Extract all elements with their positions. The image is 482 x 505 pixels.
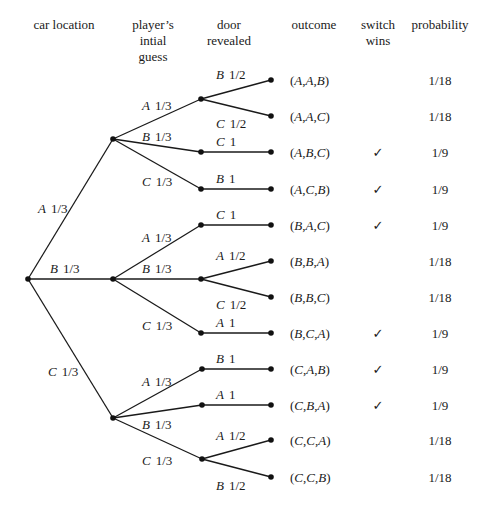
outcome-tuple: (B,B,A): [290, 254, 329, 269]
initial-guess-node: [199, 456, 205, 462]
outcome-tuple: (C,C,B): [290, 470, 330, 485]
outcome-probability: 1/18: [428, 470, 451, 485]
edge-labels: A1/3B1/3C1/3A1/3B1/3C1/3A1/3B1/3C1/3A1/3…: [37, 67, 246, 493]
outcome-tuple: (C,C,A): [290, 433, 330, 448]
outcome-tuple: (B,A,C): [290, 218, 330, 233]
checkmark-icon: ✓: [373, 362, 384, 377]
column-headers: car locationplayer’sintialguessdoorrevea…: [34, 17, 470, 64]
initial-guess-node: [199, 402, 205, 408]
outcome-tuple: (A,B,C): [290, 145, 330, 160]
door-revealed-label: B1: [216, 171, 235, 186]
initial-guess-node: [198, 330, 204, 336]
outcome-tuple: (C,B,A): [290, 398, 330, 413]
leaf-node: [268, 113, 274, 119]
outcome-probability: 1/18: [428, 254, 451, 269]
car-location-label: A1/3: [37, 201, 68, 216]
leaf-node: [268, 77, 274, 83]
leaf-node: [268, 186, 274, 192]
outcome-tuple: (C,A,B): [290, 362, 330, 377]
initial-guess-node: [198, 276, 204, 282]
column-header: player’sintialguess: [132, 17, 174, 64]
leaf-node: [268, 258, 274, 264]
checkmark-icon: ✓: [373, 398, 384, 413]
checkmark-icon: ✓: [373, 326, 384, 341]
leaf-node: [268, 474, 274, 480]
initial-guess-label: A1/3: [141, 230, 172, 245]
initial-guess-label: C1/3: [142, 174, 172, 189]
outcome-probability: 1/9: [432, 398, 449, 413]
car-location-node: [110, 276, 116, 282]
car-location-node: [110, 415, 116, 421]
initial-guess-node: [198, 222, 204, 228]
column-header: doorrevealed: [207, 17, 252, 48]
outcome-probability: 1/18: [428, 109, 451, 124]
door-revealed-edge: [201, 80, 271, 99]
outcome-tuple: (A,C,B): [290, 182, 330, 197]
door-revealed-label: A1: [215, 315, 235, 330]
car-location-node: [110, 136, 116, 142]
door-revealed-label: B1/2: [216, 478, 246, 493]
car-location-label: C1/3: [48, 364, 78, 379]
initial-guess-label: B1/3: [142, 417, 172, 432]
outcome-tuple: (A,A,C): [290, 109, 330, 124]
leaf-node: [268, 402, 274, 408]
leaf-node: [268, 294, 274, 300]
column-header: outcome: [292, 17, 337, 32]
outcome-tuple: (B,C,A): [290, 326, 330, 341]
root-node: [25, 276, 31, 282]
leaf-node: [268, 222, 274, 228]
door-revealed-label: B1/2: [216, 67, 246, 82]
outcome-probability: 1/18: [428, 73, 451, 88]
door-revealed-edge: [201, 279, 271, 297]
outcome-probability: 1/9: [432, 362, 449, 377]
door-revealed-edge: [201, 261, 271, 279]
initial-guess-label: B1/3: [142, 129, 172, 144]
column-header: probability: [411, 17, 469, 32]
initial-guess-node: [198, 96, 204, 102]
door-revealed-label: C1/2: [216, 116, 246, 131]
outcome-tuple: (B,B,C): [290, 290, 330, 305]
outcome-probability: 1/18: [428, 433, 451, 448]
initial-guess-label: C1/3: [142, 318, 172, 333]
door-revealed-label: B1: [216, 351, 235, 366]
door-revealed-label: A1: [215, 387, 235, 402]
checkmark-icon: ✓: [373, 145, 384, 160]
initial-guess-node: [199, 366, 205, 372]
leaf-node: [268, 366, 274, 372]
initial-guess-label: A1/3: [141, 98, 172, 113]
outcome-probability: 1/9: [432, 218, 449, 233]
outcome-probability: 1/9: [432, 145, 449, 160]
initial-guess-node: [198, 186, 204, 192]
checkmark-icon: ✓: [373, 182, 384, 197]
initial-guess-label: C1/3: [142, 453, 172, 468]
door-revealed-label: C1/2: [216, 297, 246, 312]
car-location-edge: [28, 279, 113, 418]
column-header: switchwins: [361, 17, 395, 48]
initial-guess-node: [198, 149, 204, 155]
leaf-node: [268, 149, 274, 155]
leaf-node: [268, 437, 274, 443]
initial-guess-label: B1/3: [142, 261, 172, 276]
door-revealed-label: C1: [216, 134, 236, 149]
outcome-probability: 1/9: [432, 182, 449, 197]
door-revealed-label: A1/2: [215, 248, 246, 263]
column-header: car location: [34, 17, 95, 32]
outcome-tuple: (A,A,B): [290, 73, 329, 88]
outcome-probability: 1/18: [428, 290, 451, 305]
outcome-probability: 1/9: [432, 326, 449, 341]
initial-guess-label: A1/3: [141, 374, 172, 389]
car-location-label: B1/3: [50, 261, 80, 276]
door-revealed-edge: [201, 99, 271, 116]
door-revealed-label: A1/2: [215, 428, 246, 443]
monty-hall-probability-tree: car locationplayer’sintialguessdoorrevea…: [0, 0, 482, 505]
checkmark-icon: ✓: [373, 218, 384, 233]
leaf-node: [268, 330, 274, 336]
outcome-rows: (A,A,B)1/18(A,A,C)1/18(A,B,C)✓1/9(A,C,B)…: [290, 73, 452, 485]
door-revealed-edge: [202, 459, 271, 477]
door-revealed-label: C1: [216, 207, 236, 222]
